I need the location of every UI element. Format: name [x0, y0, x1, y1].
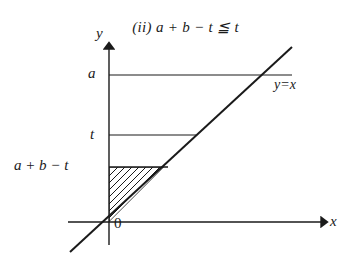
- y-tick-label-a: a: [88, 66, 96, 81]
- diagonal-line-label: y=x: [274, 78, 296, 92]
- x-axis-label: x: [330, 214, 337, 229]
- origin-label: 0: [114, 216, 122, 231]
- y-tick-label-t: t: [90, 127, 94, 142]
- diagonal-line-y-equals-x: [70, 47, 292, 252]
- figure-container: (ii) a + b − t ≦ t: [0, 0, 355, 278]
- hatched-triangle: [95, 152, 196, 253]
- coordinate-plot: [0, 0, 355, 278]
- y-tick-label-a-plus-b-minus-t: a + b − t: [14, 158, 68, 173]
- y-axis-label: y: [96, 26, 103, 41]
